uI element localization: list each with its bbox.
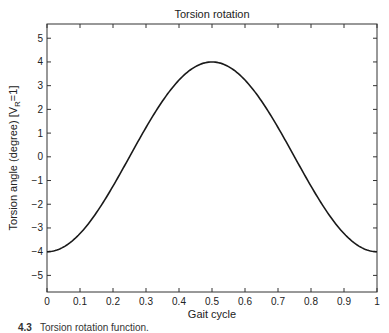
y-tick-label: −5 [32,270,44,281]
figure-caption: 4.3Torsion rotation function. [18,322,149,333]
y-tick-label: −1 [32,175,44,186]
x-axis: 00.10.20.30.40.50.60.70.80.91 [44,24,380,307]
x-tick-label: 0.5 [205,296,219,307]
y-tick-label: 4 [37,56,43,67]
y-tick-label: −2 [32,199,44,210]
y-axis-label: Torsion angle (degree) [VR=1] [7,86,22,231]
y-tick-label: 1 [37,128,43,139]
x-axis-label: Gait cycle [188,308,236,320]
torsion-rotation-chart: Torsion rotation 00.10.20.30.40.50.60.70… [0,0,389,333]
x-tick-label: 0 [44,296,50,307]
x-tick-label: 0.6 [238,296,252,307]
y-tick-label: 5 [37,33,43,44]
x-tick-label: 0.7 [271,296,285,307]
x-tick-label: 0.9 [337,296,351,307]
y-tick-label: 2 [37,104,43,115]
y-tick-label: −3 [32,222,44,233]
x-tick-label: 0.4 [172,296,186,307]
y-axis: 543210−1−2−3−4−5 [32,33,377,281]
y-tick-label: 0 [37,151,43,162]
plot-frame [47,24,377,292]
figure-caption-text: Torsion rotation function. [40,322,149,333]
x-tick-label: 0.1 [73,296,87,307]
x-tick-label: 0.3 [139,296,153,307]
y-tick-label: 3 [37,80,43,91]
y-tick-label: −4 [32,246,44,257]
chart-title: Torsion rotation [174,8,249,20]
x-tick-label: 0.8 [304,296,318,307]
figure-number: 4.3 [18,322,32,333]
x-tick-label: 0.2 [106,296,120,307]
x-tick-label: 1 [374,296,380,307]
torsion-curve [47,62,377,252]
